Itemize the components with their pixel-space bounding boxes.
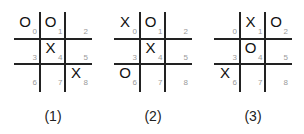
board-cell: X6 xyxy=(214,63,239,88)
board-cell: 3 xyxy=(214,38,239,63)
cell-index: 0 xyxy=(133,27,137,36)
board-cell: O6 xyxy=(114,63,139,88)
cell-index: 5 xyxy=(184,53,188,62)
board-cell: 2 xyxy=(65,12,90,37)
board-cell: 3 xyxy=(14,38,39,63)
board-cell: O1 xyxy=(40,12,65,37)
cell-index: 0 xyxy=(233,27,237,36)
cell-index: 4 xyxy=(58,53,62,62)
cell-index: 2 xyxy=(184,27,188,36)
cell-index: 2 xyxy=(284,27,288,36)
cell-index: 3 xyxy=(133,53,137,62)
board-cell: 2 xyxy=(165,12,190,37)
board-cell: X0 xyxy=(114,12,139,37)
board-cell: 3 xyxy=(114,38,139,63)
board-cell: 5 xyxy=(165,38,190,63)
cell-index: 8 xyxy=(284,78,288,87)
board-cell: X1 xyxy=(240,12,265,37)
cell-index: 2 xyxy=(84,27,88,36)
board-3: 0X1O23O45X678 xyxy=(214,12,292,92)
cell-index: 6 xyxy=(233,78,237,87)
cell-index: 4 xyxy=(258,53,262,62)
cell-index: 3 xyxy=(233,53,237,62)
cell-index: 7 xyxy=(58,78,62,87)
board-cell: 8 xyxy=(165,63,190,88)
board-cell: O0 xyxy=(14,12,39,37)
board-cell: 8 xyxy=(265,63,290,88)
cell-index: 7 xyxy=(258,78,262,87)
board-caption: (1) xyxy=(23,108,83,124)
cell-index: 8 xyxy=(84,78,88,87)
board-caption: (3) xyxy=(223,108,283,124)
cell-index: 5 xyxy=(284,53,288,62)
cell-index: 6 xyxy=(33,78,37,87)
board-cell: 5 xyxy=(65,38,90,63)
board-cell: X8 xyxy=(65,63,90,88)
board-cell: O2 xyxy=(265,12,290,37)
cell-index: 3 xyxy=(33,53,37,62)
cell-index: 0 xyxy=(33,27,37,36)
cell-index: 5 xyxy=(84,53,88,62)
board-cell: 7 xyxy=(40,63,65,88)
board-cell: 0 xyxy=(214,12,239,37)
board-1: O0O123X4567X8 xyxy=(14,12,92,92)
board-cell: 5 xyxy=(265,38,290,63)
board-cell: 7 xyxy=(240,63,265,88)
board-cell: O1 xyxy=(140,12,165,37)
board-cell: 7 xyxy=(140,63,165,88)
cell-index: 8 xyxy=(184,78,188,87)
board-cell: 6 xyxy=(14,63,39,88)
board-caption: (2) xyxy=(123,108,183,124)
board-cell: X4 xyxy=(40,38,65,63)
board-cell: O4 xyxy=(240,38,265,63)
board-cell: X4 xyxy=(140,38,165,63)
cell-index: 1 xyxy=(158,27,162,36)
cell-index: 1 xyxy=(58,27,62,36)
cell-index: 7 xyxy=(158,78,162,87)
board-2: X0O123X45O678 xyxy=(114,12,192,92)
cell-index: 4 xyxy=(158,53,162,62)
cell-index: 1 xyxy=(258,27,262,36)
cell-index: 6 xyxy=(133,78,137,87)
